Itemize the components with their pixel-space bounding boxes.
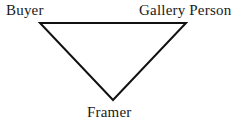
node-label-framer: Framer [87, 104, 132, 121]
node-label-buyer: Buyer [6, 2, 44, 19]
node-label-gallery-person: Gallery Person [139, 2, 231, 19]
inverted-triangle-shape [40, 23, 186, 100]
diagram-canvas: Buyer Gallery Person Framer [0, 0, 247, 127]
